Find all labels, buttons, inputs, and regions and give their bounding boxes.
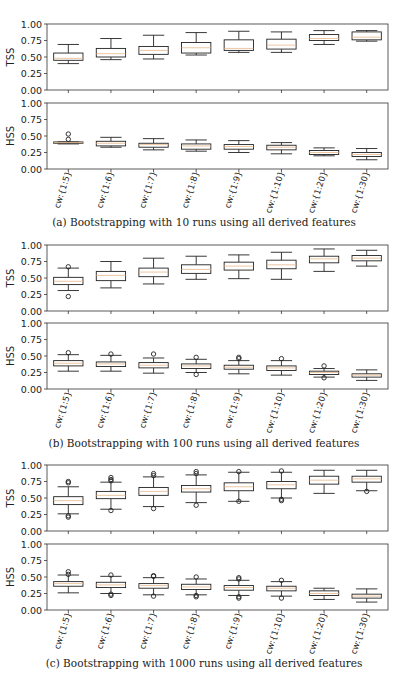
x-tick-label: cw:{1:10} bbox=[263, 170, 286, 215]
figure-canvas: 0.000.250.500.751.00TSS0.000.250.500.751… bbox=[0, 0, 408, 678]
y-tick-label: 0.75 bbox=[21, 114, 42, 125]
x-tick-label: cw:{1:20} bbox=[306, 611, 329, 656]
y-tick-label: 0.00 bbox=[21, 306, 42, 317]
x-tick-label: cw:{1:9} bbox=[222, 170, 243, 210]
x-tick-label: cw:{1:10} bbox=[263, 611, 286, 656]
x-tick-label: cw:{1:30} bbox=[349, 390, 372, 435]
y-tick-label: 0.75 bbox=[21, 555, 42, 566]
y-tick-label: 0.00 bbox=[21, 605, 42, 616]
x-tick-label: cw:{1:5} bbox=[52, 170, 73, 210]
x-tick-label: cw:{1:8} bbox=[180, 170, 201, 210]
x-tick-label: cw:{1:9} bbox=[222, 611, 243, 651]
y-tick-label: 0.25 bbox=[21, 68, 42, 79]
x-tick-label: cw:{1:6} bbox=[94, 611, 115, 651]
x-tick-label: cw:{1:9} bbox=[222, 390, 243, 430]
outlier-marker bbox=[66, 132, 70, 136]
y-tick-label: 0.25 bbox=[21, 509, 42, 520]
x-tick-label: cw:{1:30} bbox=[349, 611, 372, 656]
y-tick-label: 1.00 bbox=[21, 98, 42, 109]
caption-c: (c) Bootstrapping with 1000 runs using a… bbox=[0, 657, 408, 669]
y-tick-label: 0.25 bbox=[21, 289, 42, 300]
box-tss-iqr bbox=[352, 32, 381, 40]
x-tick-label: cw:{1:8} bbox=[180, 390, 201, 430]
box-tss-iqr bbox=[96, 271, 125, 280]
plot-frame bbox=[47, 323, 388, 389]
caption-b: (b) Bootstrapping with 100 runs using al… bbox=[0, 437, 408, 449]
box-tss-iqr bbox=[309, 256, 338, 263]
plot-frame bbox=[47, 544, 388, 610]
y-axis-label: TSS bbox=[5, 269, 16, 289]
y-axis-label: HSS bbox=[5, 346, 16, 366]
y-tick-label: 0.00 bbox=[21, 164, 42, 175]
y-tick-label: 0.75 bbox=[21, 334, 42, 345]
y-axis-label: HSS bbox=[5, 567, 16, 587]
x-tick-label: cw:{1:6} bbox=[94, 170, 115, 210]
y-tick-label: 0.75 bbox=[21, 256, 42, 267]
outlier-marker bbox=[194, 503, 198, 507]
y-tick-label: 0.25 bbox=[21, 367, 42, 378]
outlier-marker bbox=[66, 137, 70, 141]
outlier-marker bbox=[322, 364, 326, 368]
y-axis-label: HSS bbox=[5, 126, 16, 146]
x-tick-label: cw:{1:5} bbox=[52, 390, 73, 430]
y-tick-label: 1.00 bbox=[21, 240, 42, 251]
box-tss-iqr bbox=[267, 39, 296, 49]
x-tick-label: cw:{1:10} bbox=[263, 390, 286, 435]
x-tick-label: cw:{1:7} bbox=[137, 170, 158, 210]
x-tick-label: cw:{1:5} bbox=[52, 611, 73, 651]
y-tick-label: 0.00 bbox=[21, 526, 42, 537]
box-hss-iqr bbox=[182, 144, 211, 149]
y-tick-label: 1.00 bbox=[21, 19, 42, 30]
x-tick-label: cw:{1:20} bbox=[306, 390, 329, 435]
box-hss-iqr bbox=[139, 143, 168, 147]
y-tick-label: 0.50 bbox=[21, 273, 42, 284]
y-tick-label: 0.50 bbox=[21, 351, 42, 362]
y-tick-label: 0.25 bbox=[21, 588, 42, 599]
y-axis-label: TSS bbox=[5, 489, 16, 509]
y-tick-label: 0.00 bbox=[21, 85, 42, 96]
x-tick-label: cw:{1:20} bbox=[306, 170, 329, 215]
y-tick-label: 1.00 bbox=[21, 539, 42, 550]
y-tick-label: 0.50 bbox=[21, 572, 42, 583]
y-axis-label: TSS bbox=[5, 48, 16, 68]
x-tick-label: cw:{1:7} bbox=[137, 390, 158, 430]
y-tick-label: 0.75 bbox=[21, 35, 42, 46]
y-tick-label: 0.50 bbox=[21, 131, 42, 142]
x-tick-label: cw:{1:30} bbox=[349, 170, 372, 215]
y-tick-label: 0.00 bbox=[21, 384, 42, 395]
x-tick-label: cw:{1:8} bbox=[180, 611, 201, 651]
caption-a: (a) Bootstrapping with 10 runs using all… bbox=[0, 216, 408, 228]
box-tss-iqr bbox=[96, 48, 125, 57]
box-tss-iqr bbox=[309, 35, 338, 41]
outlier-marker bbox=[151, 352, 155, 356]
box-tss-iqr bbox=[54, 53, 83, 60]
plot-frame bbox=[47, 103, 388, 169]
x-tick-label: cw:{1:6} bbox=[94, 390, 115, 430]
outlier-marker bbox=[66, 294, 70, 298]
y-tick-label: 1.00 bbox=[21, 318, 42, 329]
y-tick-label: 0.25 bbox=[21, 147, 42, 158]
x-tick-label: cw:{1:7} bbox=[137, 611, 158, 651]
y-tick-label: 0.75 bbox=[21, 476, 42, 487]
y-tick-label: 0.50 bbox=[21, 52, 42, 63]
y-tick-label: 1.00 bbox=[21, 460, 42, 471]
y-tick-label: 0.50 bbox=[21, 493, 42, 504]
